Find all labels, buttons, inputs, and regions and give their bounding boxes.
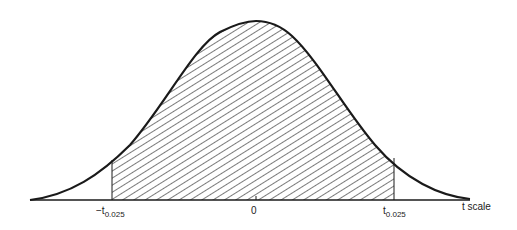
t-distribution-figure bbox=[0, 0, 517, 230]
axis-label: t scale bbox=[462, 201, 491, 212]
pos-critical-label: t0.025 bbox=[383, 205, 406, 219]
neg-critical-label: −t0.025 bbox=[96, 205, 125, 219]
zero-label: 0 bbox=[251, 205, 257, 216]
